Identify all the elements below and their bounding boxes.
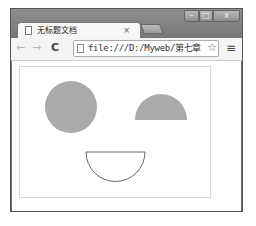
maximize-button[interactable]: □ — [199, 10, 213, 22]
window-controls: – □ x — [184, 10, 240, 22]
url-text[interactable]: file:///D:/Myweb/第七章 — [88, 42, 201, 55]
right-eye-half-circle — [135, 94, 187, 120]
mouth-half-circle — [86, 152, 145, 181]
bookmark-star-icon[interactable]: ☆ — [207, 41, 217, 55]
back-button[interactable]: ← — [16, 41, 25, 55]
address-bar[interactable]: file:///D:/Myweb/第七章 ☆ — [73, 40, 219, 57]
close-window-button[interactable]: x — [213, 10, 240, 22]
tab-close-button[interactable]: × — [123, 25, 130, 36]
reload-button[interactable]: C — [51, 41, 59, 55]
smiley-drawing — [20, 67, 212, 199]
tab-title: 无标题文档 — [37, 25, 77, 36]
page-icon — [77, 44, 84, 53]
menu-button[interactable]: ≡ — [226, 41, 236, 55]
new-tab-button[interactable] — [140, 24, 164, 34]
left-eye-circle — [45, 81, 97, 133]
canvas — [19, 66, 211, 198]
document-icon — [25, 26, 32, 35]
minimize-button[interactable]: – — [184, 10, 199, 22]
forward-button[interactable]: → — [32, 41, 41, 55]
tab-active[interactable]: 无标题文档 × — [17, 22, 141, 39]
toolbar: ← → C file:///D:/Myweb/第七章 ☆ ≡ — [11, 38, 242, 61]
browser-window: – □ x 无标题文档 × ← → C file:///D:/Myweb/第七章… — [10, 8, 243, 212]
page-content — [12, 61, 241, 211]
